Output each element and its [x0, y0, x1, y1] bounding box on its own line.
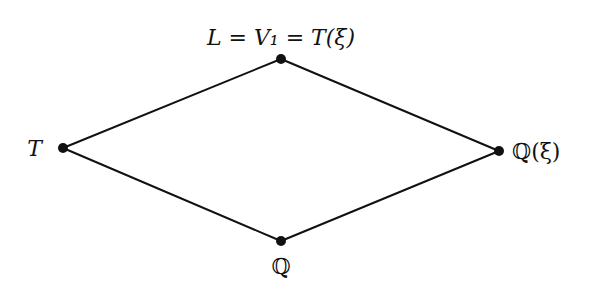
node-right — [494, 146, 504, 156]
label-bottom: ℚ — [271, 254, 290, 279]
edge-left-top — [63, 59, 281, 148]
node-top — [276, 54, 286, 64]
edge-top-right — [281, 59, 499, 151]
edge-bottom-right — [281, 151, 499, 241]
node-left — [58, 143, 68, 153]
label-left: T — [27, 136, 44, 161]
label-top: L = V₁ = T(ξ) — [206, 25, 355, 50]
nodes — [58, 54, 504, 246]
edge-left-bottom — [63, 148, 281, 241]
label-right: ℚ(ξ) — [512, 139, 560, 164]
field-lattice-diagram: L = V₁ = T(ξ) T ℚ(ξ) ℚ — [0, 0, 595, 289]
node-bottom — [276, 236, 286, 246]
edges — [63, 59, 499, 241]
labels: L = V₁ = T(ξ) T ℚ(ξ) ℚ — [27, 25, 560, 279]
